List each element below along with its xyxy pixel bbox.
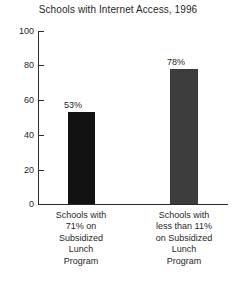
y-tick-label-60: 60 xyxy=(0,96,34,105)
category-label-1: Schools with less than 11% on Subsidized… xyxy=(134,210,234,267)
category-label-1-line-0: Schools with xyxy=(134,210,234,221)
y-tick-label-80: 80 xyxy=(0,61,34,70)
category-label-1-line-4: Program xyxy=(134,256,234,267)
category-label-0: Schools with 71% on Subsidized Lunch Pro… xyxy=(31,210,131,267)
bar-series-0[interactable] xyxy=(68,112,95,204)
category-label-0-line-0: Schools with xyxy=(31,210,131,221)
bar-chart-figure: Schools with Internet Access, 1996 100 8… xyxy=(0,0,236,281)
y-tick-label-100: 100 xyxy=(0,27,34,36)
category-label-0-line-1: 71% on xyxy=(31,221,131,232)
y-tick-label-20: 20 xyxy=(0,166,34,175)
category-label-1-line-2: on Subsidized xyxy=(134,233,234,244)
y-tick-label-40: 40 xyxy=(0,131,34,140)
y-tick-mark-0 xyxy=(38,204,44,205)
category-label-1-line-3: Lunch xyxy=(134,244,234,255)
category-label-0-line-4: Program xyxy=(31,256,131,267)
bar-value-label-1: 78% xyxy=(146,57,206,67)
x-axis-line xyxy=(38,204,228,205)
bar-value-label-0: 53% xyxy=(43,100,103,110)
category-label-0-line-3: Lunch xyxy=(31,244,131,255)
bar-series-1[interactable] xyxy=(170,69,198,204)
chart-title: Schools with Internet Access, 1996 xyxy=(0,3,236,16)
category-label-0-line-2: Subsidized xyxy=(31,233,131,244)
y-tick-label-0: 0 xyxy=(0,200,34,209)
category-label-1-line-1: less than 11% xyxy=(134,221,234,232)
